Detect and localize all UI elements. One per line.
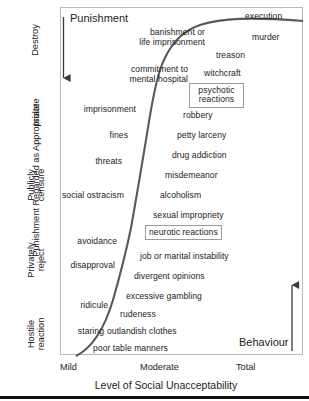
label-sexual-impropriety: sexual impropriety bbox=[153, 211, 224, 221]
label-psychotic-reactions: psychotic reactions bbox=[189, 83, 244, 108]
label-misdemeanor: misdemeanor bbox=[165, 171, 218, 181]
commitment-line-2: mental hospital bbox=[129, 74, 188, 84]
bottom-divider bbox=[0, 396, 309, 399]
label-fines: fines bbox=[70, 131, 128, 141]
label-neurotic-reactions: neurotic reactions bbox=[145, 225, 222, 240]
label-job-marital-instability: job or marital instability bbox=[140, 252, 229, 262]
y-tick-isolate: Isolate bbox=[31, 87, 41, 137]
x-tick-total: Total bbox=[236, 362, 255, 372]
y-tick-publicly-censure: Publiclycensure bbox=[26, 152, 46, 218]
label-commitment-mental-hospital: commitment to mental hospital bbox=[104, 65, 188, 85]
y-tick-publicly-censure-line-1: Publicly bbox=[26, 169, 36, 201]
psychotic-line-1: psychotic bbox=[198, 85, 234, 95]
label-disapproval: disapproval bbox=[58, 261, 115, 271]
label-drug-addiction: drug addiction bbox=[172, 151, 227, 161]
label-imprisonment: imprisonment bbox=[70, 105, 136, 115]
punishment-heading: Punishment bbox=[70, 12, 128, 24]
banishment-line-2: life imprisonment bbox=[139, 37, 205, 47]
label-excessive-gambling: excessive gambling bbox=[126, 292, 202, 302]
label-outlandish-clothes: outlandish clothes bbox=[107, 327, 177, 337]
banishment-line-1: banishment or bbox=[150, 27, 205, 37]
label-banishment-life-imprisonment: banishment or life imprisonment bbox=[120, 28, 205, 48]
label-alcoholism: alcoholism bbox=[160, 191, 201, 201]
y-tick-hostile-reaction: Hostilereaction bbox=[26, 301, 46, 367]
x-tick-mild: Mild bbox=[60, 362, 77, 372]
y-tick-privately-reject-line-1: Privately bbox=[26, 242, 36, 277]
y-tick-privately-reject-line-2: reject bbox=[36, 249, 46, 271]
label-witchcraft: witchcraft bbox=[204, 69, 241, 79]
label-rudeness: rudeness bbox=[120, 310, 156, 320]
x-tick-moderate: Moderate bbox=[140, 362, 179, 372]
label-divergent-opinions: divergent opinions bbox=[134, 272, 205, 282]
y-tick-hostile-reaction-line-1: Hostile bbox=[26, 320, 36, 348]
label-robbery: robbery bbox=[183, 111, 213, 121]
x-axis-title: Level of Social Unacceptability bbox=[60, 379, 272, 391]
y-tick-destroy: Destroy bbox=[30, 14, 40, 66]
label-threats: threats bbox=[66, 157, 122, 167]
y-tick-publicly-censure-line-2: censure bbox=[36, 169, 46, 202]
label-execution: execution bbox=[245, 12, 282, 22]
psychotic-line-2: reactions bbox=[199, 94, 234, 104]
label-avoidance: avoidance bbox=[62, 237, 117, 247]
label-treason: treason bbox=[216, 51, 245, 61]
punishment-behaviour-chart: Punishment Behaviour execution murder tr… bbox=[0, 0, 309, 401]
label-petty-larceny: petty larceny bbox=[177, 131, 226, 141]
label-staring: staring bbox=[58, 327, 104, 337]
label-poor-table-manners: poor table manners bbox=[93, 344, 168, 354]
behaviour-heading: Behaviour bbox=[239, 336, 289, 348]
commitment-line-1: commitment to bbox=[131, 64, 188, 74]
label-ridicule: ridicule bbox=[58, 301, 108, 311]
label-murder: murder bbox=[252, 33, 280, 43]
y-tick-hostile-reaction-line-2: reaction bbox=[36, 318, 46, 351]
label-social-ostracism: social ostracism bbox=[62, 191, 122, 201]
y-tick-privately-reject: Privatelyreject bbox=[26, 227, 46, 293]
